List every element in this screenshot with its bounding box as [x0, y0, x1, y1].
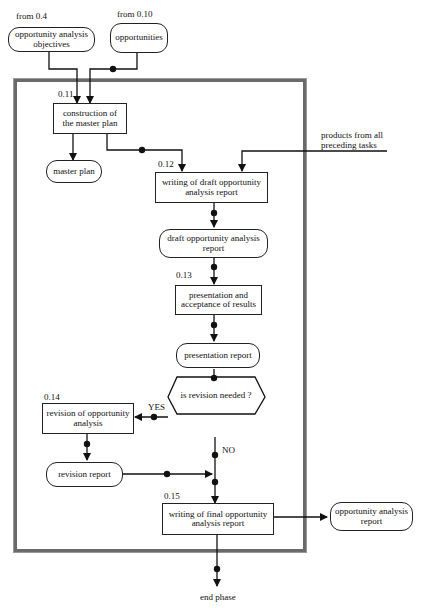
- task-label: revision of opportunity analysis: [46, 409, 130, 428]
- task-label: presentation and acceptance of results: [179, 291, 258, 310]
- decision-label: is revision needed ?: [180, 390, 251, 400]
- product-label: revision report: [58, 470, 111, 480]
- no-branch-label: NO: [222, 446, 235, 456]
- product-revision-report[interactable]: revision report: [46, 462, 123, 487]
- yes-branch-label: YES: [148, 403, 165, 413]
- end-phase-label: end phase: [200, 593, 236, 603]
- product-opportunity-analysis-objectives[interactable]: opportunity analysis objectives: [8, 27, 95, 52]
- product-opportunities[interactable]: opportunities: [110, 23, 168, 53]
- task-id-0-15: 0.15: [164, 492, 180, 502]
- product-label: presentation report: [184, 351, 252, 361]
- task-construction-of-master-plan[interactable]: construction of the master plan: [53, 103, 127, 134]
- task-label: writing of draft opportunity analysis re…: [159, 178, 264, 197]
- task-label: construction of the master plan: [57, 109, 123, 128]
- decision-is-revision-needed[interactable]: is revision needed ?: [168, 378, 264, 412]
- task-id-0-13: 0.13: [176, 271, 192, 281]
- product-master-plan[interactable]: master plan: [46, 160, 102, 183]
- product-label: opportunity analysis report: [334, 507, 409, 526]
- task-writing-final-report[interactable]: writing of final opportunity analysis re…: [162, 503, 274, 535]
- task-id-0-12: 0.12: [158, 160, 174, 170]
- task-id-0-14: 0.14: [44, 393, 60, 403]
- product-opportunity-analysis-report[interactable]: opportunity analysis report: [330, 502, 413, 531]
- external-input-label: products from all preceding tasks: [321, 131, 391, 150]
- task-presentation-and-acceptance[interactable]: presentation and acceptance of results: [175, 285, 262, 315]
- product-draft-report[interactable]: draft opportunity analysis report: [159, 229, 268, 258]
- product-label: draft opportunity analysis report: [163, 234, 264, 253]
- product-label: opportunity analysis objectives: [12, 30, 91, 49]
- source-label-0-10: from 0.10: [117, 10, 153, 20]
- product-label: master plan: [53, 167, 95, 177]
- task-label: writing of final opportunity analysis re…: [166, 510, 270, 529]
- product-presentation-report[interactable]: presentation report: [176, 343, 260, 368]
- task-id-0-11: 0.11: [58, 90, 73, 100]
- task-writing-draft-report[interactable]: writing of draft opportunity analysis re…: [155, 172, 268, 203]
- product-label: opportunities: [115, 33, 163, 43]
- source-label-0-4: from 0.4: [16, 12, 47, 22]
- task-revision-of-opportunity-analysis[interactable]: revision of opportunity analysis: [42, 403, 134, 434]
